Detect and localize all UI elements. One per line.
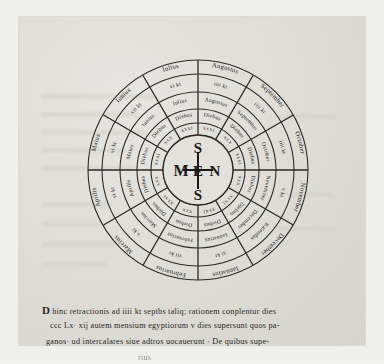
caption-line-2: ccc Lx· xij autem mensium egyptiorum v d…	[42, 318, 378, 334]
sector-2-kalends: v kt	[130, 227, 141, 238]
calendar-wheel-rota: Ianuarius xi kt Ianuarius Diebus xxxi Fe…	[80, 52, 316, 288]
sector-8-days: xxx	[223, 134, 234, 145]
caption-text-block: D hinc retractionis ad iiii kt septbs ta…	[42, 302, 378, 364]
sector-6-kalends: vi kt	[169, 81, 182, 90]
hub-letter-bottom: S	[194, 187, 202, 203]
sector-8-month: September	[260, 82, 287, 109]
hub-letter-right: N	[210, 163, 221, 179]
sector-9-kalends: iiii kt	[278, 140, 287, 155]
sector-5-month: Iunius	[114, 86, 132, 104]
sector-3-month-repeat: Aprilis	[125, 179, 135, 197]
sector-6-month-repeat: Iulius	[172, 97, 187, 106]
sector-8-kalends: iiii kt	[253, 101, 267, 115]
sector-7-month-repeat: Augustus	[204, 96, 228, 108]
sector-11-days: xxxi	[222, 194, 235, 207]
caption-line-3: ganos· ud intercalares siue adtros uocau…	[42, 334, 378, 350]
sector-1-month: Februarius	[154, 264, 186, 279]
decorated-initial: D	[42, 304, 50, 316]
hub-letter-left: M	[173, 162, 188, 179]
sector-0-month-repeat: Ianuarius	[204, 232, 228, 244]
sector-11-month: December	[260, 232, 286, 258]
sector-10-month-repeat: November	[259, 175, 271, 202]
sector-2-days: xxxi	[161, 194, 174, 207]
sector-4-kalends: vi kt	[109, 141, 118, 154]
sector-5-kalends: vii kt	[129, 101, 143, 115]
parchment-folio: Ianuarius xi kt Ianuarius Diebus xxxi Fe…	[18, 16, 366, 346]
caption-line-1-text: hinc retractionis ad iiii kt septbs tali…	[52, 307, 276, 316]
hub-letter-top: S	[194, 140, 202, 156]
sector-2-month: Marcius	[112, 234, 134, 256]
caption-line-1: D hinc retractionis ad iiii kt septbs ta…	[42, 302, 378, 318]
caption-line-4: rius	[42, 350, 378, 364]
sector-10-month: November	[292, 182, 307, 213]
sector-5-days: xxx	[162, 134, 173, 145]
rota-svg: Ianuarius xi kt Ianuarius Diebus xxxi Fe…	[80, 52, 316, 288]
sector-1-month-repeat: Februarius	[166, 231, 193, 244]
sector-9-month-repeat: October	[261, 141, 272, 162]
sector-11-month-repeat: December	[237, 209, 259, 231]
sector-7-kalends: iiii kt	[213, 81, 228, 90]
sector-10-kalends: v kt	[279, 187, 287, 198]
sector-3-kalends: vi kt	[109, 186, 118, 199]
sector-4-month-repeat: Maius	[125, 143, 135, 159]
sector-0-kalends: xi kt	[214, 251, 227, 260]
sector-1-kalends: vii kt	[168, 250, 182, 259]
hub-letter-center: E	[193, 163, 203, 179]
